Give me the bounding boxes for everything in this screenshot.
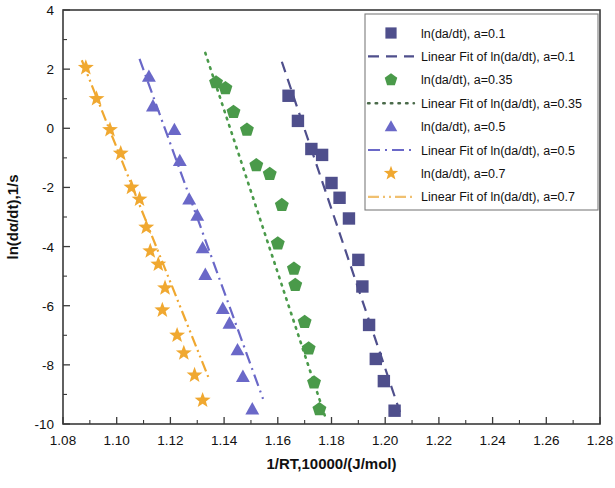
legend-label: Linear Fit of ln(da/dt), a=0.7: [421, 190, 575, 204]
square-marker: [378, 375, 390, 387]
chart-legend[interactable]: ln(da/dt), a=0.1Linear Fit of ln(da/dt),…: [365, 14, 598, 210]
x-tick-label: 1.26: [533, 433, 559, 448]
x-tick-label: 1.22: [426, 433, 452, 448]
square-marker: [352, 254, 364, 266]
x-tick-label: 1.28: [587, 433, 613, 448]
square-marker: [388, 404, 400, 416]
data-point: [305, 143, 317, 155]
legend-label: Linear Fit of ln(da/dt), a=0.35: [421, 97, 582, 111]
x-axis-title: 1/RT,10000/(J/mol): [266, 455, 396, 472]
data-point: [352, 254, 364, 266]
data-point: [356, 280, 368, 292]
data-point: [343, 212, 355, 224]
legend-label: ln(da/dt), a=0.7: [421, 167, 505, 181]
data-point: [370, 353, 382, 365]
square-marker: [305, 143, 317, 155]
square-marker: [333, 192, 345, 204]
x-tick-label: 1.08: [50, 433, 76, 448]
data-point: [282, 90, 294, 102]
square-marker: [370, 353, 382, 365]
y-tick-label: -4: [42, 240, 54, 255]
y-tick-label: -6: [42, 299, 54, 314]
square-marker: [356, 280, 368, 292]
legend-label: Linear Fit of ln(da/dt), a=0.5: [421, 144, 575, 158]
y-tick-label: 4: [46, 3, 54, 18]
chart-figure: 1.081.101.121.141.161.181.201.221.241.26…: [0, 0, 615, 488]
square-marker: [325, 177, 337, 189]
y-tick-label: -10: [34, 417, 54, 432]
data-point: [333, 192, 345, 204]
square-marker: [363, 319, 375, 331]
y-tick-label: 0: [46, 121, 54, 136]
square-marker: [316, 149, 328, 161]
legend-label: ln(da/dt), a=0.5: [421, 120, 505, 134]
data-point: [378, 375, 390, 387]
data-point: [325, 177, 337, 189]
square-marker: [282, 90, 294, 102]
legend-label: ln(da/dt), a=0.35: [421, 73, 512, 87]
y-tick-label: -2: [42, 180, 54, 195]
legend-label: Linear Fit of ln(da/dt), a=0.1: [421, 50, 575, 64]
y-tick-label: -8: [42, 358, 54, 373]
square-marker: [292, 115, 304, 127]
legend-label: ln(da/dt), a=0.1: [421, 27, 505, 41]
data-point: [388, 404, 400, 416]
y-axis-title: ln(dα/dt),1/s: [4, 174, 21, 259]
x-tick-label: 1.16: [265, 433, 291, 448]
chart-canvas: 1.081.101.121.141.161.181.201.221.241.26…: [0, 0, 615, 488]
legend-marker: [385, 27, 396, 38]
x-tick-label: 1.14: [211, 433, 238, 448]
data-point: [363, 319, 375, 331]
data-point: [292, 115, 304, 127]
y-tick-label: 2: [46, 62, 54, 77]
x-tick-label: 1.10: [104, 433, 130, 448]
x-tick-label: 1.12: [157, 433, 183, 448]
x-tick-label: 1.24: [479, 433, 506, 448]
data-point: [316, 149, 328, 161]
square-marker: [385, 27, 396, 38]
x-tick-label: 1.20: [372, 433, 398, 448]
square-marker: [343, 212, 355, 224]
x-tick-label: 1.18: [318, 433, 344, 448]
